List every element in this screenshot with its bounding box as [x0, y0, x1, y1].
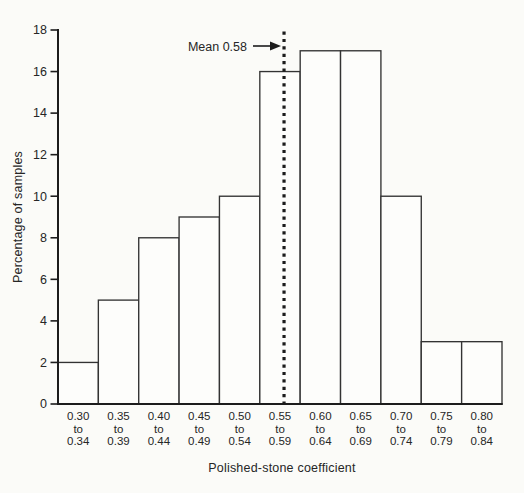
x-bin-label-4-line-1: to: [235, 423, 245, 435]
chart-layer: 0246810121416180.30to0.340.35to0.390.40t…: [33, 23, 503, 447]
y-axis-title: Percentage of samples: [11, 151, 25, 283]
x-bin-label-3-line-0: 0.45: [188, 410, 210, 422]
x-axis-title: Polished-stone coefficient: [208, 461, 356, 475]
x-bin-label-0-line-1: to: [73, 423, 83, 435]
histogram-bar-0.45-0.49: [179, 217, 219, 404]
x-bin-label-7-line-1: to: [356, 423, 366, 435]
x-bin-label-6-line-1: to: [316, 423, 326, 435]
x-bin-label-5-line-0: 0.55: [269, 410, 291, 422]
histogram-bar-0.65-0.69: [341, 51, 381, 404]
x-bin-label-9-line-1: to: [437, 423, 447, 435]
x-bin-label-3-line-1: to: [194, 423, 204, 435]
mean-annotation-label: Mean 0.58: [188, 40, 247, 54]
histogram-bar-0.30-0.34: [58, 362, 98, 404]
x-bin-label-8-line-1: to: [396, 423, 406, 435]
histogram-chart: 0246810121416180.30to0.340.35to0.390.40t…: [0, 0, 524, 493]
x-bin-label-8-line-0: 0.70: [390, 410, 412, 422]
x-bin-label-9-line-2: 0.79: [430, 435, 452, 447]
x-bin-label-6-line-2: 0.64: [309, 435, 332, 447]
y-tick-label-6: 6: [40, 273, 47, 287]
x-bin-label-10-line-2: 0.84: [471, 435, 494, 447]
x-bin-label-0-line-0: 0.30: [67, 410, 89, 422]
y-tick-label-2: 2: [40, 356, 47, 370]
mean-arrow: [253, 42, 281, 51]
x-bin-label-2-line-2: 0.44: [148, 435, 171, 447]
histogram-bar-0.35-0.39: [98, 300, 138, 404]
y-tick-label-10: 10: [33, 190, 47, 204]
x-bin-label-4-line-2: 0.54: [228, 435, 251, 447]
histogram-bar-0.55-0.59: [260, 72, 300, 404]
x-bin-label-5-line-2: 0.59: [269, 435, 291, 447]
histogram-bar-0.40-0.44: [139, 238, 179, 404]
x-bin-label-3-line-2: 0.49: [188, 435, 210, 447]
x-bin-label-0-line-2: 0.34: [67, 435, 90, 447]
y-tick-label-0: 0: [40, 397, 47, 411]
x-bin-label-5-line-1: to: [275, 423, 285, 435]
y-tick-label-16: 16: [33, 65, 47, 79]
histogram-bar-0.60-0.64: [300, 51, 340, 404]
y-tick-label-8: 8: [40, 231, 47, 245]
y-tick-label-12: 12: [33, 148, 47, 162]
histogram-bar-0.80-0.84: [462, 342, 502, 404]
x-bin-label-10-line-0: 0.80: [471, 410, 493, 422]
x-bin-label-1-line-1: to: [114, 423, 124, 435]
x-bin-label-2-line-1: to: [154, 423, 164, 435]
histogram-figure: 0246810121416180.30to0.340.35to0.390.40t…: [0, 0, 524, 493]
y-tick-label-4: 4: [40, 314, 47, 328]
y-tick-label-18: 18: [33, 23, 47, 37]
x-bin-label-4-line-0: 0.50: [228, 410, 250, 422]
x-bin-label-7-line-0: 0.65: [350, 410, 372, 422]
histogram-bar-0.75-0.79: [421, 342, 461, 404]
histogram-bar-0.70-0.74: [381, 196, 421, 404]
x-bin-label-1-line-2: 0.39: [107, 435, 129, 447]
x-bin-label-10-line-1: to: [477, 423, 487, 435]
y-tick-label-14: 14: [33, 106, 47, 120]
x-bin-label-9-line-0: 0.75: [430, 410, 452, 422]
histogram-bar-0.50-0.54: [219, 196, 259, 404]
x-bin-label-6-line-0: 0.60: [309, 410, 331, 422]
x-bin-label-2-line-0: 0.40: [148, 410, 170, 422]
x-bin-label-8-line-2: 0.74: [390, 435, 413, 447]
x-bin-label-7-line-2: 0.69: [350, 435, 372, 447]
x-bin-label-1-line-0: 0.35: [107, 410, 129, 422]
